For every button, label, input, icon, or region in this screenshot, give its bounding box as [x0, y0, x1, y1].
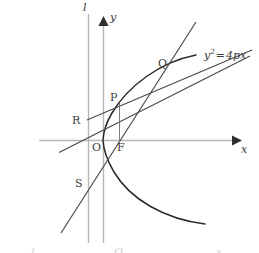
- secant-line-SQ: [61, 22, 196, 233]
- cutoff-text-middle: O: [114, 247, 123, 253]
- point-label-s: S: [75, 178, 83, 189]
- parabola-equation-label: y2=4px: [204, 50, 246, 61]
- cutoff-text-left: l: [31, 247, 35, 253]
- point-label-o: O: [92, 142, 101, 153]
- point-label-p: P: [110, 92, 117, 103]
- y-axis-label: y: [110, 12, 116, 23]
- equation-operator: =: [215, 49, 226, 62]
- cutoff-text-right: x: [216, 247, 222, 253]
- y-axis-arrow-icon: [99, 16, 109, 26]
- x-axis-label: x: [241, 144, 247, 155]
- directrix-label: l: [83, 2, 87, 13]
- point-label-q: Q: [158, 58, 167, 69]
- point-label-r: R: [72, 115, 80, 126]
- parabola-figure: l y x P Q R S O F y2=4px l O x: [0, 0, 259, 253]
- parabola-curve: [103, 55, 205, 224]
- figure-canvas: [0, 0, 259, 253]
- equation-rhs: 4px: [226, 49, 246, 62]
- point-label-f: F: [117, 142, 125, 153]
